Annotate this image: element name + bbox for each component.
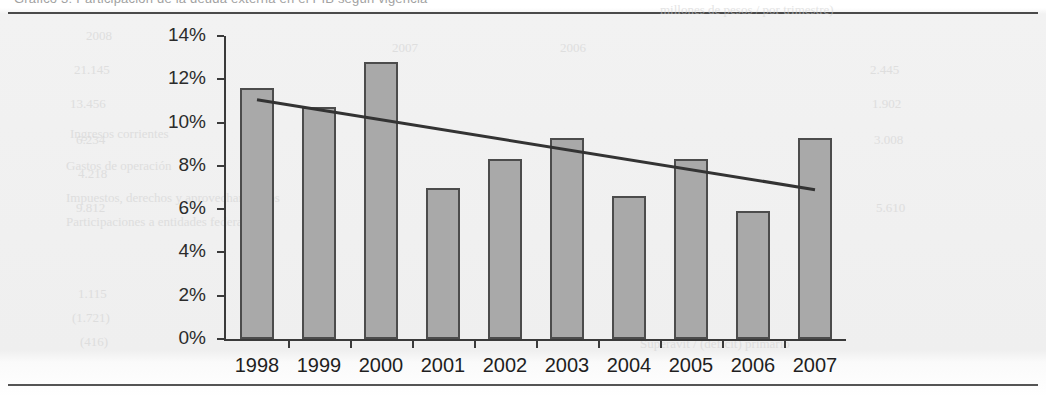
y-axis-tick-label: 0% (179, 327, 206, 349)
x-axis-tick-label: 2000 (359, 354, 404, 377)
y-axis-tick: 0% (217, 338, 224, 340)
y-axis-tick-label: 2% (179, 283, 206, 305)
x-axis-tick-label: 1999 (297, 354, 342, 377)
trendline-svg (224, 36, 846, 341)
y-axis-tick-label: 12% (168, 67, 206, 89)
y-axis-tick: 4% (217, 251, 224, 253)
y-axis-tick-label: 6% (179, 197, 206, 219)
x-axis-tick-label: 2002 (483, 354, 528, 377)
x-axis-tick-label: 2006 (731, 354, 776, 377)
y-axis-tick: 6% (217, 208, 224, 210)
plot-area: 0%2%4%6%8%10%12%14% 19981999200020012002… (224, 36, 846, 340)
figure-page: Gráfico 3: Participación de la deuda ext… (0, 0, 1046, 397)
y-axis-tick-label: 14% (168, 24, 206, 46)
x-axis-tick-label: 2004 (607, 354, 652, 377)
x-axis-tick-label: 1998 (235, 354, 280, 377)
trendline (257, 100, 815, 190)
y-axis-tick: 14% (217, 35, 224, 37)
y-axis-tick-label: 4% (179, 240, 206, 262)
y-axis-tick-label: 8% (179, 153, 206, 175)
x-axis-tick-label: 2005 (669, 354, 714, 377)
x-axis-tick-label: 2001 (421, 354, 466, 377)
y-axis-tick: 12% (217, 78, 224, 80)
x-axis-tick-label: 2003 (545, 354, 590, 377)
x-axis-tick-label: 2007 (793, 354, 838, 377)
y-axis-tick: 8% (217, 165, 224, 167)
y-axis-tick: 2% (217, 295, 224, 297)
y-axis-tick-label: 10% (168, 110, 206, 132)
bar-chart: 0%2%4%6%8%10%12%14% 19981999200020012002… (0, 0, 1046, 397)
y-axis-tick: 10% (217, 122, 224, 124)
